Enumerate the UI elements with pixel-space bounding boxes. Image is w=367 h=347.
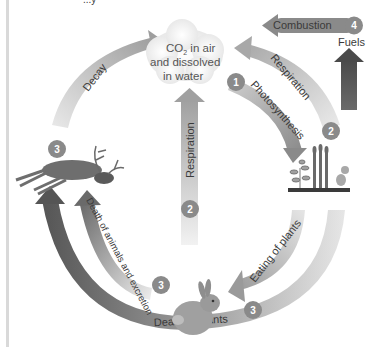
- co2-line3: in water: [163, 70, 203, 82]
- respiration-center-label: Respiration: [184, 122, 196, 178]
- svg-text:3: 3: [158, 280, 164, 291]
- fuels-arrow: [334, 48, 364, 110]
- svg-text:CO2 in air: CO2 in air: [166, 42, 215, 56]
- badge-death-of-plants: 3: [244, 301, 262, 319]
- combustion-arrow: Combustion: [262, 14, 354, 37]
- eating-of-plants-label: Eating of plants: [247, 217, 303, 285]
- svg-text:3: 3: [54, 144, 60, 155]
- badge-respiration-center: 2: [181, 200, 199, 218]
- fuels-label: Fuels: [338, 36, 365, 48]
- badge-death-of-animals: 3: [152, 276, 170, 294]
- co2-rest: in air: [187, 42, 215, 54]
- co2-cloud-node: CO2 in air and dissolved in water: [146, 19, 224, 84]
- badge-decay: 3: [48, 140, 66, 158]
- badge-photosynthesis: 1: [227, 73, 245, 91]
- svg-text:2: 2: [187, 204, 193, 215]
- carbon-cycle-diagram: ...y Decay Respiration Photosynthesis Re…: [0, 0, 367, 347]
- badge-respiration-outer: 2: [322, 122, 340, 140]
- svg-text:3: 3: [250, 305, 256, 316]
- deer-illustration: [16, 146, 124, 194]
- co2-line2: and dissolved: [150, 56, 220, 68]
- respiration-center-arrow: Respiration: [174, 88, 205, 245]
- svg-text:4: 4: [351, 20, 357, 31]
- death-of-animals-arrow: Death of animals and excretion: [74, 190, 155, 317]
- badge-combustion: 4: [345, 17, 363, 35]
- combustion-label: Combustion: [273, 19, 332, 31]
- svg-text:2: 2: [328, 126, 334, 137]
- svg-text:1: 1: [233, 77, 239, 88]
- co2-text: CO: [166, 42, 183, 54]
- title-fragment: ...y: [83, 0, 96, 5]
